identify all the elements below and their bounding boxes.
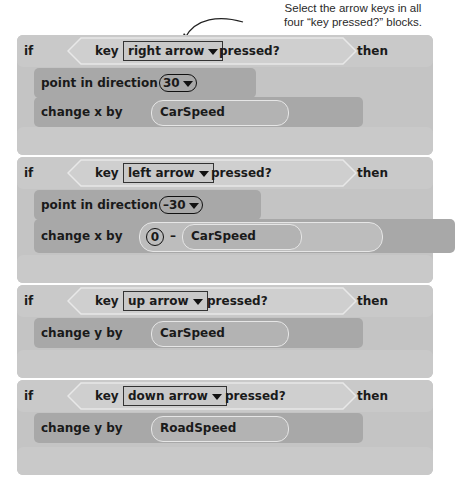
- direction-value: 30: [163, 76, 180, 90]
- if-header: if key right arrow pressed? then: [17, 35, 433, 67]
- key-pressed-sensing-block[interactable]: key up arrow pressed?: [67, 287, 357, 315]
- key-pressed-sensing-block[interactable]: key left arrow pressed?: [67, 159, 357, 187]
- roadspeed-reporter[interactable]: RoadSpeed: [151, 416, 289, 442]
- key-value: up arrow: [128, 294, 189, 308]
- if-block-left-arrow[interactable]: if key left arrow pressed? then point in…: [17, 157, 433, 283]
- dropdown-arrow-icon: [199, 171, 209, 177]
- subtraction-operator-block[interactable]: 0 – CarSpeed: [139, 222, 383, 252]
- if-label: if: [24, 389, 33, 403]
- dropdown-arrow-icon: [208, 49, 218, 55]
- statement-label: change y by: [41, 326, 123, 340]
- carspeed-reporter[interactable]: CarSpeed: [182, 224, 302, 250]
- dropdown-arrow-icon: [183, 81, 193, 87]
- key-dropdown[interactable]: up arrow: [123, 291, 208, 311]
- if-block-right-arrow[interactable]: if key right arrow pressed? then point i…: [17, 35, 433, 155]
- key-dropdown[interactable]: right arrow: [123, 41, 223, 61]
- dropdown-arrow-icon: [193, 299, 203, 305]
- change-y-by-block[interactable]: change y by RoadSpeed: [34, 413, 363, 443]
- reporter-label: CarSpeed: [160, 105, 225, 119]
- key-value: right arrow: [128, 44, 204, 58]
- key-label: key: [95, 166, 119, 180]
- then-label: then: [357, 44, 388, 58]
- if-header: if key up arrow pressed? then: [17, 285, 433, 317]
- dropdown-arrow-icon: [189, 203, 199, 209]
- direction-dropdown[interactable]: –30: [159, 196, 203, 214]
- if-block-down-arrow[interactable]: if key down arrow pressed? then change y…: [17, 380, 433, 475]
- if-label: if: [24, 294, 33, 308]
- if-footer: [17, 350, 433, 378]
- pressed-label: pressed?: [207, 294, 268, 308]
- key-pressed-sensing-block[interactable]: key down arrow pressed?: [67, 382, 357, 410]
- key-value: left arrow: [128, 166, 195, 180]
- if-header: if key down arrow pressed? then: [17, 380, 433, 412]
- key-dropdown[interactable]: down arrow: [123, 386, 227, 406]
- key-label: key: [95, 44, 119, 58]
- key-value: down arrow: [128, 389, 208, 403]
- reporter-label: RoadSpeed: [160, 421, 236, 435]
- statement-label: change y by: [41, 421, 123, 435]
- pressed-label: pressed?: [219, 44, 280, 58]
- then-label: then: [357, 294, 388, 308]
- change-x-by-block[interactable]: change x by CarSpeed: [34, 97, 363, 127]
- statement-label: point in direction: [41, 198, 158, 212]
- if-header: if key left arrow pressed? then: [17, 157, 433, 189]
- pressed-label: pressed?: [211, 166, 272, 180]
- carspeed-reporter[interactable]: CarSpeed: [151, 321, 289, 347]
- operand-zero[interactable]: 0: [146, 228, 164, 246]
- then-label: then: [357, 389, 388, 403]
- if-footer: [17, 255, 433, 283]
- minus-operator: –: [170, 229, 176, 243]
- statement-label: change x by: [41, 229, 123, 243]
- if-label: if: [24, 44, 33, 58]
- annotation-line-1: Select the arrow keys in all: [242, 1, 464, 15]
- key-pressed-sensing-block[interactable]: key right arrow pressed?: [67, 37, 357, 65]
- point-in-direction-block[interactable]: point in direction 30: [34, 68, 256, 98]
- annotation-line-2: four “key pressed?” blocks.: [242, 15, 464, 29]
- dropdown-arrow-icon: [212, 394, 222, 400]
- point-in-direction-block[interactable]: point in direction –30: [34, 190, 261, 220]
- reporter-label: CarSpeed: [191, 229, 256, 243]
- if-block-up-arrow[interactable]: if key up arrow pressed? then change y b…: [17, 285, 433, 378]
- annotation-callout: Select the arrow keys in all four “key p…: [242, 1, 464, 29]
- if-footer: [17, 127, 433, 155]
- key-label: key: [95, 389, 119, 403]
- change-x-by-block[interactable]: change x by 0 – CarSpeed: [34, 219, 455, 253]
- statement-label: change x by: [41, 105, 123, 119]
- direction-dropdown[interactable]: 30: [159, 74, 197, 92]
- direction-value: –30: [163, 198, 186, 212]
- pressed-label: pressed?: [225, 389, 286, 403]
- carspeed-reporter[interactable]: CarSpeed: [151, 100, 289, 126]
- then-label: then: [357, 166, 388, 180]
- if-footer: [17, 447, 433, 475]
- key-label: key: [95, 294, 119, 308]
- if-label: if: [24, 166, 33, 180]
- statement-label: point in direction: [41, 76, 158, 90]
- reporter-label: CarSpeed: [160, 326, 225, 340]
- key-dropdown[interactable]: left arrow: [123, 163, 214, 183]
- change-y-by-block[interactable]: change y by CarSpeed: [34, 318, 363, 348]
